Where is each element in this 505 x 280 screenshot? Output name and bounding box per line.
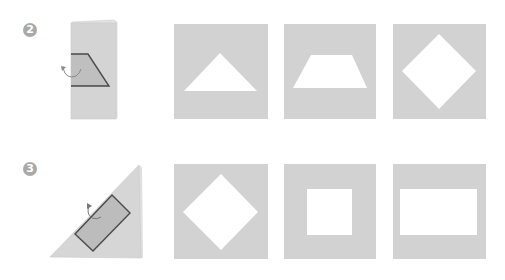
diagram-canvas [0, 0, 505, 280]
step2-result-diamond [393, 24, 486, 119]
arrow-head-icon [87, 203, 92, 209]
step3-result-diamond [174, 164, 268, 259]
step3-result-square [284, 164, 376, 259]
rectangle-cutout [400, 189, 477, 235]
step2-result-trapezoid [284, 24, 376, 119]
square-cutout [307, 189, 352, 235]
step3-fold-diagram [50, 165, 143, 258]
step2-result-triangle [174, 24, 268, 119]
step3-result-rectangle [393, 164, 486, 259]
step2-fold-diagram [61, 20, 117, 119]
